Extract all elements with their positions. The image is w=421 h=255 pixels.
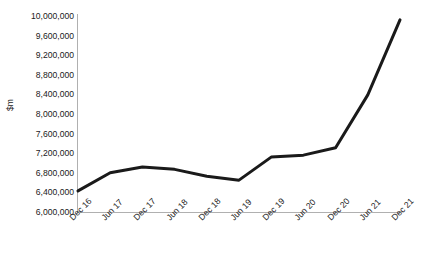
x-axis-tick: Dec 17 [132, 197, 157, 222]
x-axis-tick: Dec 16 [68, 197, 93, 222]
x-axis-tick: Jun 17 [100, 198, 124, 222]
x-axis-tick: Jun 18 [165, 198, 189, 222]
x-axis-tick-labels: Dec 16Jun 17Dec 17Jun 18Dec 18Jun 19Dec … [0, 0, 421, 255]
chart-container: $m 10,000,0009,600,0009,200,0008,800,000… [0, 0, 421, 255]
x-axis-tick: Dec 21 [390, 197, 415, 222]
x-axis-tick: Jun 19 [229, 198, 253, 222]
x-axis-tick: Dec 18 [197, 197, 222, 222]
x-axis-tick: Jun 21 [358, 198, 382, 222]
x-axis-tick: Dec 20 [326, 197, 351, 222]
x-axis-tick: Dec 19 [261, 197, 286, 222]
x-axis-tick: Jun 20 [293, 198, 317, 222]
